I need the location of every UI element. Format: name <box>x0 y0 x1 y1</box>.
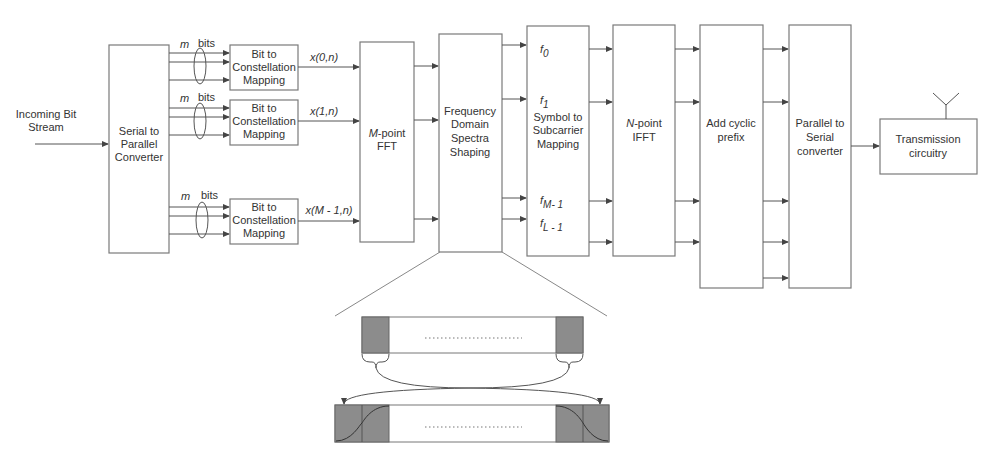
svg-text:Constellation: Constellation <box>232 115 296 127</box>
svg-text:N-point: N-point <box>626 117 661 129</box>
svg-text:Add cyclic: Add cyclic <box>706 117 756 129</box>
serial-to-parallel-block: Serial to Parallel Converter <box>109 45 169 253</box>
svg-text:Mapping: Mapping <box>537 138 579 150</box>
mapper-branch-0: m bits Bit to Constellation Mapping x(0,… <box>169 37 359 90</box>
svg-text:Bit to: Bit to <box>251 48 276 60</box>
svg-text:Transmission: Transmission <box>896 133 961 145</box>
parallel-to-serial-block: Parallel to Serial converter <box>789 25 879 288</box>
svg-text:bits: bits <box>198 91 216 103</box>
svg-text:Frequency: Frequency <box>444 105 496 117</box>
svg-text:Mapping: Mapping <box>243 227 285 239</box>
m-point-fft-block: M-point FFT <box>360 42 438 242</box>
incoming-bit-stream: Incoming Bit Stream <box>16 108 108 144</box>
svg-text:Stream: Stream <box>28 121 63 133</box>
svg-text:x(0,n): x(0,n) <box>309 51 338 63</box>
sc-fdma-block-diagram: Incoming Bit Stream Serial to Parallel C… <box>0 0 1004 466</box>
mapper-branch-m-1: m bits Bit to Constellation Mapping x(M … <box>169 189 359 244</box>
n-point-ifft-block: N-point IFFT <box>613 25 699 256</box>
svg-text:IFFT: IFFT <box>632 131 655 143</box>
mapper-branch-1: m bits Bit to Constellation Mapping x(1,… <box>169 91 359 145</box>
svg-text:prefix: prefix <box>718 131 745 143</box>
frequency-domain-spectra-shaping-block: Frequency Domain Spectra Shaping <box>439 34 526 252</box>
antenna-icon <box>933 93 959 119</box>
inset-extended-spectrum <box>335 405 609 442</box>
svg-text:Constellation: Constellation <box>232 61 296 73</box>
svg-text:Serial: Serial <box>806 131 834 143</box>
svg-text:Domain: Domain <box>451 118 489 130</box>
svg-text:M-point: M-point <box>369 127 406 139</box>
svg-text:m: m <box>180 38 189 50</box>
svg-text:Serial to: Serial to <box>119 125 159 137</box>
svg-text:bits: bits <box>201 189 219 201</box>
svg-text:Mapping: Mapping <box>243 128 285 140</box>
svg-text:Incoming Bit: Incoming Bit <box>16 108 77 120</box>
svg-text:m: m <box>181 190 190 202</box>
svg-text:bits: bits <box>198 37 216 49</box>
transmission-circuitry-block: Transmission circuitry <box>880 93 977 174</box>
svg-text:FFT: FFT <box>377 140 397 152</box>
svg-text:converter: converter <box>797 145 843 157</box>
svg-text:m: m <box>180 92 189 104</box>
edge-block-left <box>362 317 389 353</box>
svg-text:Parallel: Parallel <box>121 138 158 150</box>
svg-text:Mapping: Mapping <box>243 74 285 86</box>
svg-text:Shaping: Shaping <box>450 146 490 158</box>
svg-text:Subcarrier: Subcarrier <box>533 124 584 136</box>
svg-text:Parallel to: Parallel to <box>796 117 845 129</box>
svg-text:Symbol to: Symbol to <box>534 111 583 123</box>
add-cyclic-prefix-block: Add cyclic prefix <box>700 25 788 288</box>
svg-text:circuitry: circuitry <box>909 147 947 159</box>
copy-arrow-left <box>344 368 569 404</box>
fdss-zoom-lines <box>335 252 607 316</box>
edge-block-right <box>556 317 583 353</box>
svg-text:x(M - 1,n): x(M - 1,n) <box>304 204 352 216</box>
svg-text:Bit to: Bit to <box>251 102 276 114</box>
svg-text:Spectra: Spectra <box>451 132 490 144</box>
symbol-to-subcarrier-mapping-block: f0 f1 Symbol to Subcarrier Mapping fM- 1… <box>527 26 612 256</box>
svg-text:x(1,n): x(1,n) <box>309 105 338 117</box>
svg-text:Constellation: Constellation <box>232 214 296 226</box>
inset-original-spectrum <box>344 317 600 404</box>
svg-text:Bit to: Bit to <box>251 201 276 213</box>
svg-text:Converter: Converter <box>115 151 164 163</box>
